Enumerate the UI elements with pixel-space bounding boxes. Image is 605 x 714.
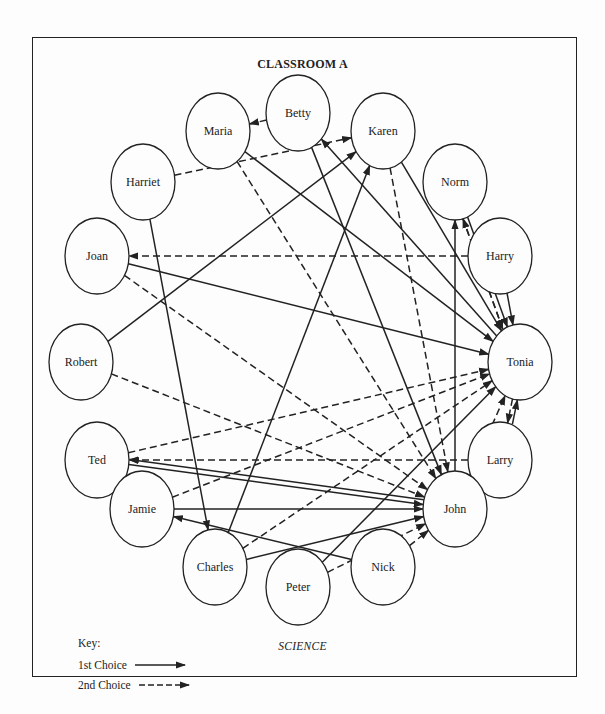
node-label-betty: Betty [258,106,338,121]
node-label-charles: Charles [175,560,255,575]
edge-tonia-to-larry-second-choice [508,399,513,423]
node-label-harriet: Harriet [103,175,183,190]
legend-title: Key: [78,637,193,655]
node-label-karen: Karen [343,124,423,139]
node-label-peter: Peter [258,580,338,595]
node-label-jamie: Jamie [102,502,182,517]
node-label-harry: Harry [460,249,540,264]
legend-second-choice-label: 2nd Choice [78,679,131,691]
solid-arrow-icon [133,660,189,670]
node-label-nick: Nick [343,560,423,575]
edge-harry-to-tonia-first-choice [507,293,513,325]
legend-second-choice: 2nd Choice [78,675,193,695]
edge-larry-to-tonia-first-choice [512,400,517,424]
node-label-john: John [415,502,495,517]
edge-nick-to-john-second-choice [410,530,429,545]
legend-first-choice-label: 1st Choice [78,659,127,671]
edge-ted-to-tonia-second-choice [128,369,488,452]
node-label-joan: Joan [57,249,137,264]
edge-joan-to-tonia-first-choice [128,264,488,354]
dashed-arrow-icon [137,680,193,690]
legend-first-choice: 1st Choice [78,655,193,675]
legend: Key: 1st Choice 2nd Choice [78,637,193,695]
node-label-robert: Robert [41,355,121,370]
nodes-layer [49,75,552,625]
node-label-norm: Norm [415,175,495,190]
node-label-maria: Maria [178,124,258,139]
node-label-ted: Ted [57,453,137,468]
node-label-tonia: Tonia [480,355,560,370]
node-label-larry: Larry [460,453,540,468]
